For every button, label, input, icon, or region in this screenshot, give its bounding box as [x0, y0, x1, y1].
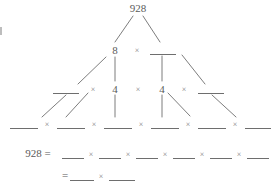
answer1-operator-3: × [163, 151, 168, 159]
edge-l3-four2-right [168, 93, 190, 116]
edge-root-right [143, 16, 160, 42]
edge-r2-right [182, 55, 205, 84]
operator-level3-1: × [91, 86, 96, 94]
blank-level4-4[interactable] [151, 128, 179, 129]
operator-level4-2: × [92, 121, 97, 129]
blank-level4-5[interactable] [198, 128, 226, 129]
answer1-blank-3[interactable] [136, 158, 158, 159]
blank-level4-6[interactable] [245, 128, 271, 129]
answer1-blank-5[interactable] [210, 158, 232, 159]
blank-level3-right[interactable] [198, 93, 224, 94]
answer1-operator-5: × [237, 151, 242, 159]
answer2-operator-1: × [99, 173, 104, 181]
edge-l3-right-a [212, 95, 236, 117]
operator-level2: × [135, 47, 140, 55]
operator-level3-3: × [182, 86, 187, 94]
blank-level3-left[interactable] [53, 93, 79, 94]
answer2-blank-2[interactable] [109, 180, 135, 181]
answer1-operator-2: × [126, 151, 131, 159]
answer2-blank-1[interactable] [70, 180, 94, 181]
factor-tree-connectors [0, 0, 276, 188]
factor-tree-root-number: 928 [130, 3, 147, 14]
answer-line-1-lead: 928 = [25, 148, 50, 159]
factor-node-4-left: 4 [112, 84, 118, 95]
operator-level4-1: × [45, 121, 50, 129]
answer1-blank-1[interactable] [62, 158, 84, 159]
factor-tree-worksheet: 928 8 × × 4 × 4 × × × × × × 928 = × × × … [0, 0, 276, 188]
answer1-blank-4[interactable] [173, 158, 195, 159]
answer1-operator-1: × [89, 151, 94, 159]
blank-level2-right[interactable] [150, 54, 176, 55]
factor-node-4-right: 4 [159, 84, 165, 95]
edge-8-left [78, 57, 106, 84]
operator-level4-5: × [233, 121, 238, 129]
operator-level4-4: × [186, 121, 191, 129]
answer1-operator-4: × [200, 151, 205, 159]
answer-line-2-lead: = [62, 170, 68, 181]
blank-level4-2[interactable] [57, 128, 85, 129]
clipped-margin-mark [0, 27, 2, 35]
edge-l3-left-b [66, 93, 88, 117]
answer1-blank-2[interactable] [99, 158, 121, 159]
edge-root-left [115, 16, 133, 42]
operator-level3-2: × [136, 86, 141, 94]
factor-node-8: 8 [112, 45, 118, 56]
blank-level4-1[interactable] [10, 128, 38, 129]
answer1-blank-6[interactable] [247, 158, 269, 159]
operator-level4-3: × [139, 121, 144, 129]
edge-l3-left-a [42, 95, 66, 117]
blank-level4-3[interactable] [104, 128, 132, 129]
